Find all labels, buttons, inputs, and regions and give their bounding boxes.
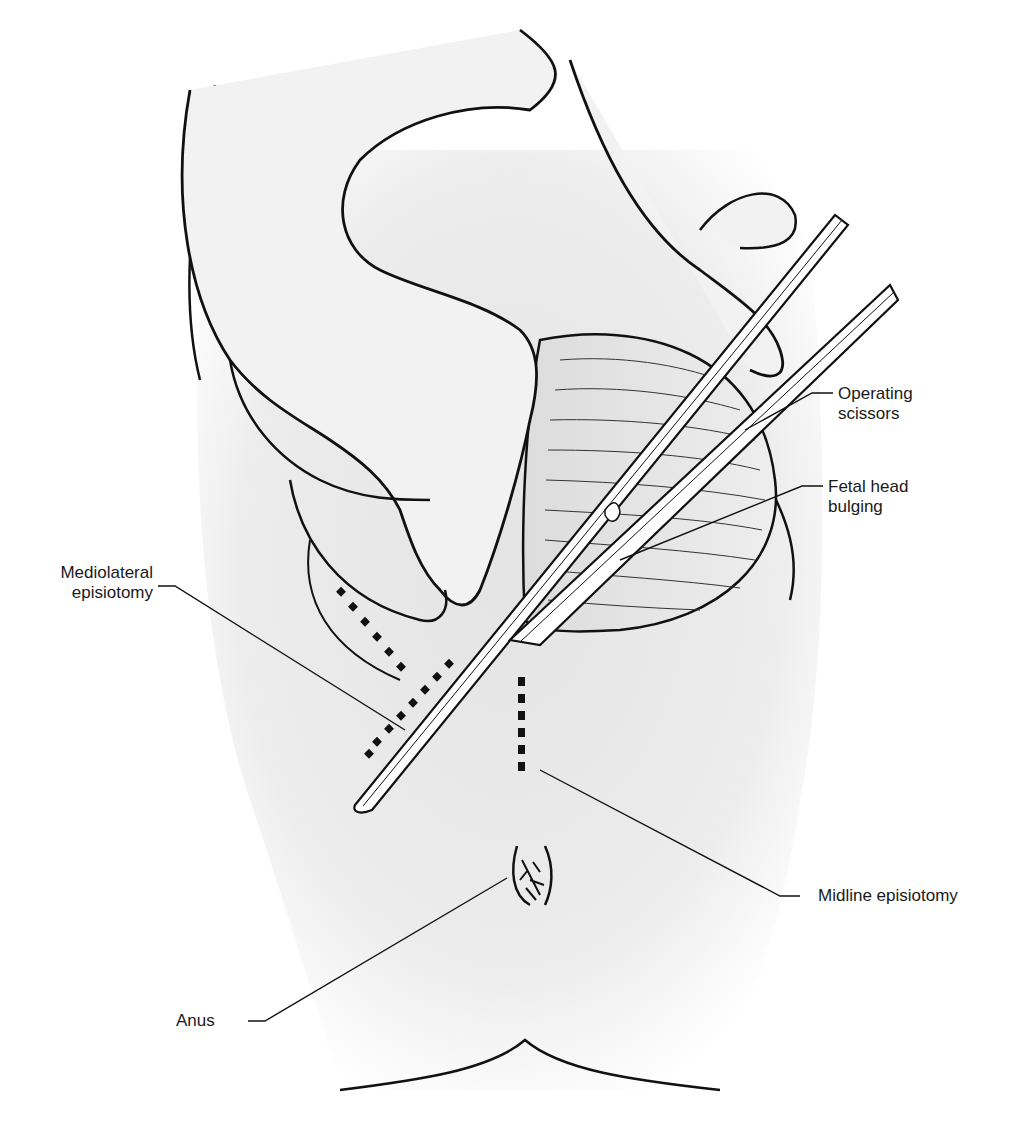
- label-midline-episiotomy: Midline episiotomy: [818, 886, 958, 906]
- label-operating-scissors: Operating scissors: [838, 384, 913, 424]
- label-anus: Anus: [176, 1011, 215, 1031]
- episiotomy-illustration: Operating scissors Fetal head bulging Me…: [0, 0, 1022, 1127]
- label-mediolateral-episiotomy: Mediolateral episiotomy: [36, 563, 153, 603]
- label-fetal-head-bulging: Fetal head bulging: [828, 477, 908, 517]
- illustration-drawing: [0, 0, 1022, 1127]
